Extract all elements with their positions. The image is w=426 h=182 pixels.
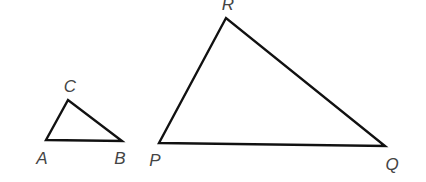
- vertex-label-q: Q: [385, 155, 398, 174]
- vertex-label-r: R: [222, 0, 234, 14]
- vertex-label-p: P: [149, 151, 161, 170]
- vertex-label-b: B: [114, 149, 125, 168]
- triangle-pqr: [159, 18, 385, 146]
- vertex-label-c: C: [64, 77, 77, 96]
- diagram-canvas: A B C P Q R: [0, 0, 426, 182]
- vertex-label-a: A: [35, 149, 47, 168]
- triangle-abc: [46, 100, 122, 141]
